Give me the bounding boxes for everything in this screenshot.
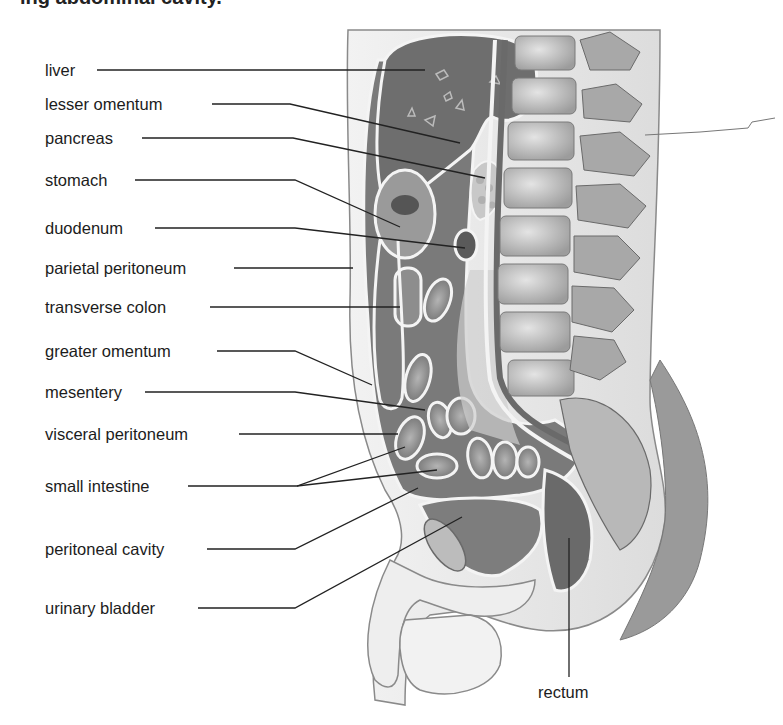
label-lesser-omentum: lesser omentum (45, 94, 162, 114)
label-urinary-bladder: urinary bladder (45, 598, 155, 618)
label-small-intestine: small intestine (45, 476, 150, 496)
label-mesentery: mesentery (45, 382, 122, 402)
label-rectum: rectum (538, 682, 588, 702)
label-duodenum: duodenum (45, 218, 123, 238)
label-stomach: stomach (45, 170, 107, 190)
label-greater-omentum: greater omentum (45, 341, 171, 361)
duodenum-shape (455, 230, 477, 260)
label-liver: liver (45, 60, 75, 80)
label-pancreas: pancreas (45, 128, 113, 148)
label-parietal-peritoneum: parietal peritoneum (45, 258, 186, 278)
label-visceral-peritoneum: visceral peritoneum (45, 424, 188, 444)
label-transverse-colon: transverse colon (45, 297, 166, 317)
stomach-shape (375, 170, 435, 258)
label-peritoneal-cavity: peritoneal cavity (45, 539, 164, 559)
